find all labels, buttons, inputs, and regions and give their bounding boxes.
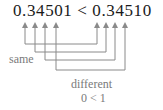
digit-comparison-label: 0 < 1 [81, 91, 106, 106]
same-label: same [9, 52, 34, 67]
different-label: different [71, 77, 112, 92]
